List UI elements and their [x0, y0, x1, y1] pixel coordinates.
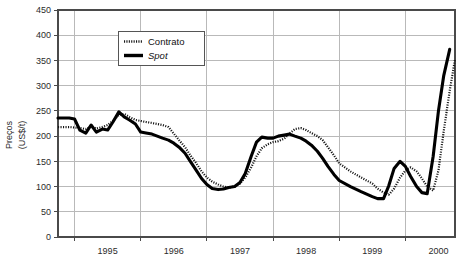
- y-tick-label: 250: [36, 106, 51, 116]
- plot-background: [0, 0, 465, 268]
- chart-canvas: 450400350300250200150100500 199519961997…: [0, 0, 465, 268]
- legend-label-contrato: Contrato: [148, 36, 184, 47]
- price-chart: 450400350300250200150100500 199519961997…: [0, 0, 465, 268]
- y-tick-label: 350: [36, 56, 51, 66]
- chart-legend: Contrato Spot: [118, 31, 204, 65]
- y-tick-label: 400: [36, 30, 51, 40]
- y-tick-label: 150: [36, 157, 51, 167]
- y-tick-label: 450: [36, 5, 51, 15]
- x-tick-label: 1998: [296, 246, 316, 256]
- x-tick-label: 1995: [98, 246, 118, 256]
- y-tick-label: 100: [36, 182, 51, 192]
- y-tick-label: 50: [41, 207, 51, 217]
- y-tick-label: 200: [36, 131, 51, 141]
- x-tick-label: 1997: [230, 246, 250, 256]
- y-axis-title-line2: (US$/t): [17, 121, 27, 150]
- x-tick-label: 1996: [164, 246, 184, 256]
- y-tick-label: 300: [36, 81, 51, 91]
- legend-label-spot: Spot: [148, 50, 168, 61]
- y-tick-label: 0: [46, 232, 51, 242]
- y-axis-title-line1: Preços: [4, 120, 14, 149]
- x-tick-label: 1999: [362, 246, 382, 256]
- x-tick-label: 2000: [428, 246, 448, 256]
